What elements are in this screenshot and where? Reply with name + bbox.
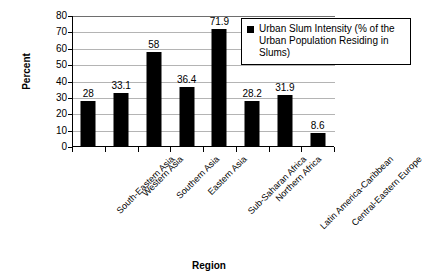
y-axis-tick-label: 10 [41,126,67,136]
x-axis-tick-mark [138,147,139,152]
y-axis-tick-label: 70 [41,27,67,37]
legend: Urban Slum Intensity (% of the Urban Pop… [241,18,411,65]
bar-value-label: 58 [148,40,159,50]
bar-value-label: 28 [83,89,94,99]
bar-slot: 33.1 [105,16,138,147]
x-axis-tick-mark [72,147,73,152]
bar-slot: 58 [138,16,171,147]
legend-entry: Urban Slum Intensity (% of the Urban Pop… [247,23,405,59]
bar [277,95,292,147]
x-axis-tick-mark [301,147,302,152]
bar [245,101,260,147]
bar [212,29,227,147]
bar-slot: 28 [72,16,105,147]
x-axis-tick-mark [269,147,270,152]
y-axis-tick-label: 0 [41,142,67,152]
y-axis-tick-label: 80 [41,11,67,21]
square-marker-icon [247,26,254,33]
bar-value-label: 28.2 [242,89,261,99]
bar-slot: 36.4 [170,16,203,147]
y-axis-tick-label: 30 [41,93,67,103]
y-axis-tick-label: 20 [41,109,67,119]
y-axis-tick-label: 50 [41,60,67,70]
x-axis-tick-mark [236,147,237,152]
bar [81,101,96,147]
x-axis-tick-mark [203,147,204,152]
bar-value-label: 8.6 [311,121,325,131]
y-axis-tick-label: 40 [41,77,67,87]
bar-value-label: 36.4 [177,75,196,85]
bar-slot: 71.9 [203,16,236,147]
x-axis-title: Region [0,260,418,271]
x-axis-category-label: Sub-Saharan Africa [246,154,308,216]
y-axis-tick-label: 60 [41,44,67,54]
bar [179,87,194,147]
legend-entry-label: Urban Slum Intensity (% of the Urban Pop… [259,23,405,59]
bar-value-label: 33.1 [111,81,130,91]
bar-value-label: 31.9 [275,83,294,93]
y-axis-title: Percent [21,27,32,117]
bar [146,52,161,147]
bar [114,93,129,147]
x-axis-tick-mark [170,147,171,152]
bar [310,133,325,147]
x-axis-tick-mark [105,147,106,152]
bar-value-label: 71.9 [210,17,229,27]
x-axis-tick-mark [334,147,335,152]
